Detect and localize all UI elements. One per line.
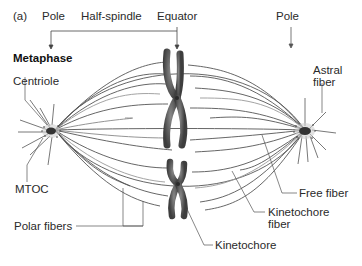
upper-centromere — [175, 96, 179, 100]
half-spindle-label: Half-spindle — [81, 10, 142, 23]
phase-title: Metaphase — [13, 52, 72, 65]
mtoc-label: MTOC — [15, 183, 49, 196]
astral-fiber-label-line2: fiber — [313, 76, 335, 89]
panel-label: (a) — [13, 10, 27, 23]
right-pole-arrow — [289, 27, 293, 48]
kinetochore-fiber-label-line2: fiber — [268, 218, 290, 231]
half-spindle-bracket — [49, 27, 179, 49]
equator-label: Equator — [157, 10, 197, 23]
centriole-label: Centriole — [13, 75, 59, 88]
polar-fibers-label: Polar fibers — [14, 220, 72, 233]
free-fiber-label: Free fiber — [299, 187, 348, 200]
lower-centromere — [176, 182, 180, 186]
mitotic-spindle-diagram: (a) Pole Half-spindle Equator Pole Metap… — [0, 0, 362, 266]
pole-left-label: Pole — [42, 10, 65, 23]
pole-right-label: Pole — [276, 10, 299, 23]
lower-chromosome — [170, 162, 185, 216]
kinetochore-label: Kinetochore — [215, 239, 276, 252]
left-centrosome — [41, 124, 60, 138]
